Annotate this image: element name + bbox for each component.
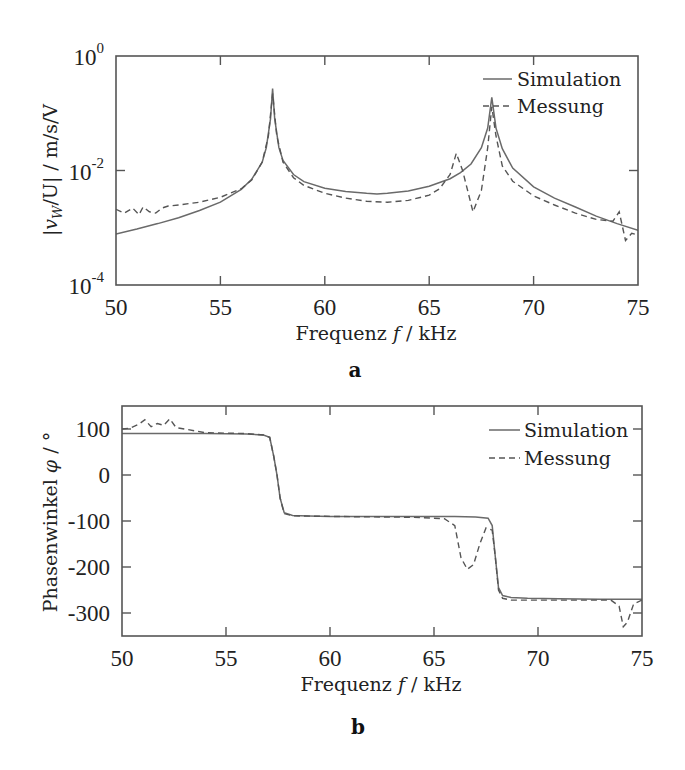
y-tick-label: 100 bbox=[74, 40, 105, 70]
x-tick-label: 60 bbox=[319, 646, 342, 671]
x-tick-label: 75 bbox=[631, 646, 654, 671]
x-tick-label: 60 bbox=[313, 295, 336, 320]
panel-a-x-axis-label: Frequenz f / kHz bbox=[295, 322, 456, 344]
x-tick-label: 55 bbox=[209, 295, 232, 320]
legend-messung-label: Messung bbox=[524, 447, 611, 469]
panel-b-y-tick-labels: 1000-100-200-300 bbox=[68, 417, 110, 626]
y-tick-label: 10-4 bbox=[69, 269, 105, 299]
panel-b-legend: Simulation Messung bbox=[489, 419, 628, 469]
legend-simulation-label: Simulation bbox=[524, 419, 628, 441]
panel-a-magnitude-plot: 505560657075 10010-210-4 Frequenz f / kH… bbox=[39, 40, 650, 382]
x-tick-label: 70 bbox=[522, 295, 545, 320]
y-tick-label: 10-2 bbox=[69, 155, 105, 185]
x-tick-label: 50 bbox=[111, 646, 134, 671]
x-tick-label: 70 bbox=[527, 646, 550, 671]
y-tick-label: -100 bbox=[68, 509, 110, 534]
panel-a-label: a bbox=[349, 358, 362, 382]
panel-a-ticks bbox=[116, 56, 638, 285]
x-tick-label: 65 bbox=[423, 646, 446, 671]
x-tick-label: 75 bbox=[627, 295, 650, 320]
y-tick-label: 100 bbox=[76, 417, 111, 442]
legend-messung-label: Messung bbox=[517, 95, 604, 117]
panel-b-y-axis-label: Phasenwinkel φ / ° bbox=[39, 432, 61, 612]
panel-b-phase-plot: 505560657075 1000-100-200-300 Frequenz f… bbox=[39, 406, 654, 739]
x-tick-label: 55 bbox=[215, 646, 238, 671]
x-tick-label: 50 bbox=[105, 295, 128, 320]
figure: 505560657075 10010-210-4 Frequenz f / kH… bbox=[0, 0, 685, 770]
panel-a-y-tick-labels: 10010-210-4 bbox=[69, 40, 105, 299]
y-tick-label: -200 bbox=[68, 555, 110, 580]
x-tick-label: 65 bbox=[418, 295, 441, 320]
panel-a-y-axis-label: |vW/U| / m/s/V bbox=[39, 104, 65, 236]
panel-b-label: b bbox=[351, 715, 365, 739]
panel-a-x-tick-labels: 505560657075 bbox=[105, 295, 650, 320]
panel-b-x-tick-labels: 505560657075 bbox=[111, 646, 654, 671]
panel-a-legend: Simulation Messung bbox=[483, 68, 621, 117]
panel-a-plot-frame bbox=[116, 56, 638, 285]
legend-simulation-label: Simulation bbox=[517, 68, 621, 90]
y-tick-label: -300 bbox=[68, 601, 110, 626]
panel-b-x-axis-label: Frequenz f / kHz bbox=[300, 673, 461, 695]
y-tick-label: 0 bbox=[99, 463, 111, 488]
